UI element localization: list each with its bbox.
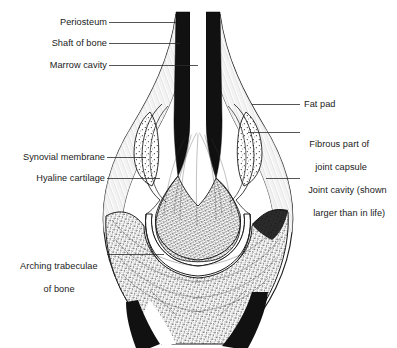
label-arching-trabeculae: Arching trabeculae of bone (8, 249, 105, 295)
label-hyaline-cartilage: Hyaline cartilage (0, 173, 105, 185)
label-fibrous-capsule-line1: Fibrous part of (309, 139, 369, 149)
label-arching-trabeculae-line1: Arching trabeculae (20, 261, 98, 271)
label-joint-cavity-line2: larger than in life) (308, 208, 385, 220)
label-synovial-membrane: Synovial membrane (0, 152, 105, 164)
label-shaft-of-bone: Shaft of bone (0, 38, 107, 50)
label-joint-cavity-line1: Joint cavity (shown (308, 185, 387, 195)
joint-anatomy-figure: Periosteum Shaft of bone Marrow cavity S… (0, 0, 397, 348)
label-fat-pad: Fat pad (304, 99, 396, 111)
label-marrow-cavity: Marrow cavity (0, 60, 107, 72)
label-periosteum: Periosteum (0, 17, 107, 29)
label-fibrous-capsule: Fibrous part of joint capsule (304, 127, 396, 173)
label-fibrous-capsule-line2: joint capsule (309, 162, 367, 174)
label-joint-cavity: Joint cavity (shown larger than in life) (303, 173, 397, 219)
label-arching-trabeculae-line2: of bone (44, 284, 75, 294)
